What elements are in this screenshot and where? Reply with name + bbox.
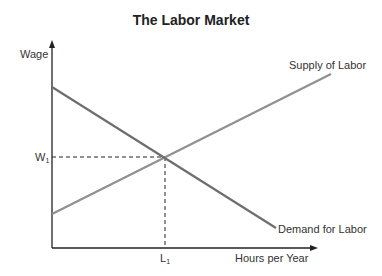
x-axis-arrow-icon: [310, 245, 318, 251]
chart-title: The Labor Market: [133, 12, 250, 28]
labor-market-chart: The Labor Market Wage Hours per Year Sup…: [0, 0, 382, 276]
supply-label: Supply of Labor: [289, 59, 366, 71]
demand-curve: [52, 87, 276, 228]
l1-label: L1: [160, 252, 170, 265]
supply-curve: [52, 74, 331, 214]
y-axis-label: Wage: [20, 48, 48, 60]
axes: [49, 40, 318, 251]
x-axis-label: Hours per Year: [235, 252, 309, 264]
demand-label: Demand for Labor: [278, 223, 367, 235]
y-axis-arrow-icon: [49, 40, 55, 48]
w1-label: W1: [35, 151, 49, 164]
